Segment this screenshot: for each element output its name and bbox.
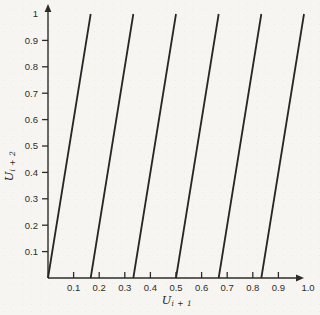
y-tick-label-0.7: 0.7 <box>25 88 38 99</box>
x-tick-label-0.3: 0.3 <box>118 282 131 293</box>
y-axis-label-main: U <box>2 172 16 182</box>
y-tick-label-0.4: 0.4 <box>25 167 38 178</box>
x-tick-label-0.6: 0.6 <box>195 282 208 293</box>
y-tick-label-0.1: 0.1 <box>25 246 38 257</box>
lattice-line-1 <box>48 14 91 278</box>
y-tick-label-0.3: 0.3 <box>25 193 38 204</box>
lattice-line-4 <box>176 14 219 278</box>
x-tick-label-0.7: 0.7 <box>221 282 234 293</box>
lattice-line-5 <box>219 14 262 278</box>
x-tick-label-0.8: 0.8 <box>246 282 259 293</box>
y-tick-label-0.9: 0.9 <box>25 35 38 46</box>
y-tick-label-0.8: 0.8 <box>25 61 38 72</box>
y-tick-label-0.2: 0.2 <box>25 220 38 231</box>
y-tick-label-0.5: 0.5 <box>25 140 38 151</box>
x-tick-label-0.1: 0.1 <box>67 282 80 293</box>
lattice-line-3 <box>133 14 176 278</box>
x-tick-label-1.0: 1.0 <box>301 282 314 293</box>
x-tick-label-0.9: 0.9 <box>272 282 285 293</box>
y-axis-label-subscript: i + 2 <box>8 151 17 172</box>
chart-canvas: 0.10.20.30.40.50.60.70.80.91.00.10.20.30… <box>0 0 320 315</box>
x-tick-label-0.2: 0.2 <box>93 282 106 293</box>
y-tick-label-1: 1 <box>33 8 38 19</box>
x-tick-label-0.4: 0.4 <box>144 282 157 293</box>
y-axis-label: Ui + 2 <box>4 151 17 181</box>
lattice-line-6 <box>261 14 304 278</box>
x-tick-label-0.5: 0.5 <box>169 282 182 293</box>
lattice-plot-figure: 0.10.20.30.40.50.60.70.80.91.00.10.20.30… <box>0 0 320 315</box>
y-axis-arrow-icon <box>45 4 52 12</box>
x-axis-arrow-icon <box>296 275 304 282</box>
x-axis-label-main: U <box>162 293 172 307</box>
y-tick-label-0.6: 0.6 <box>25 114 38 125</box>
lattice-line-2 <box>91 14 134 278</box>
x-axis-label: Ui + 1 <box>162 295 192 308</box>
x-axis-label-subscript: i + 1 <box>171 299 192 308</box>
